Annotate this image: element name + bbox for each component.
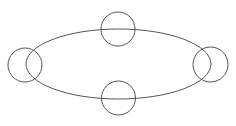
circle-left [8, 48, 42, 82]
circle-bottom [102, 81, 136, 115]
central-ellipse [26, 29, 211, 99]
ellipse-circles-diagram [0, 0, 236, 126]
